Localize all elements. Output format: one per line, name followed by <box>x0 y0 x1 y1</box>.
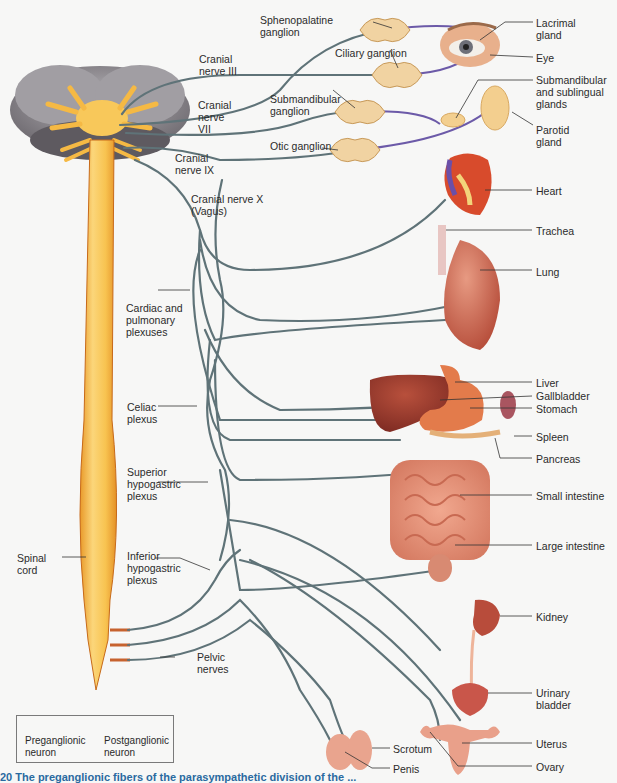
label-otic-ganglion: Otic ganglion <box>270 140 331 152</box>
label-inferior-hypogastric-plexus: Inferior hypogastric plexus <box>127 550 181 586</box>
spinal-cord-shape <box>80 140 117 690</box>
salivary-glands <box>441 86 509 130</box>
label-cranial-nerve-ix: Cranial nerve IX <box>175 152 214 176</box>
label-spinal-cord: Spinal cord <box>17 552 46 576</box>
label-cranial-nerve-x: Cranial nerve X (Vagus) <box>191 193 263 217</box>
legend-preganglionic-label: Preganglionic neuron <box>25 735 86 759</box>
label-sphenopalatine-ganglion: Sphenopalatine ganglion <box>260 14 333 38</box>
label-small-intestine: Small intestine <box>536 490 604 502</box>
label-spleen: Spleen <box>536 431 569 443</box>
label-scrotum: Scrotum <box>393 743 432 755</box>
label-cranial-nerve-vii: Cranial nerve VII <box>198 99 231 135</box>
label-cranial-nerve-iii: Cranial nerve III <box>199 53 237 77</box>
spleen-shape <box>500 391 516 419</box>
label-submandibular-ganglion: Submandibular ganglion <box>270 93 341 117</box>
label-pancreas: Pancreas <box>536 453 580 465</box>
label-stomach: Stomach <box>536 403 577 415</box>
trachea-shape <box>438 225 446 275</box>
label-cardiac-pulmonary-plexuses: Cardiac and pulmonary plexuses <box>126 302 183 338</box>
label-eye: Eye <box>536 52 554 64</box>
kidney-shape <box>473 600 500 636</box>
pancreas-shape <box>430 432 500 436</box>
label-trachea: Trachea <box>536 225 574 237</box>
label-parotid-gland: Parotid gland <box>536 124 569 148</box>
label-kidney: Kidney <box>536 611 568 623</box>
label-large-intestine: Large intestine <box>536 540 605 552</box>
label-pelvic-nerves: Pelvic nerves <box>197 651 229 675</box>
label-urinary-bladder: Urinary bladder <box>536 687 571 711</box>
ganglia <box>330 18 422 161</box>
label-liver: Liver <box>536 377 559 389</box>
label-gallbladder: Gallbladder <box>536 390 590 402</box>
bladder-shape <box>452 683 488 716</box>
label-superior-hypogastric-plexus: Superior hypogastric plexus <box>127 466 181 502</box>
label-lacrimal-gland: Lacrimal gland <box>536 17 576 41</box>
lung-shape <box>444 240 500 350</box>
label-ovary: Ovary <box>536 761 564 773</box>
legend-postganglionic-label: Postganglionic neuron <box>104 735 169 759</box>
figure-caption: 20 The preganglionic fibers of the paras… <box>0 771 356 783</box>
label-heart: Heart <box>536 185 562 197</box>
legend-box: Preganglionic neuron Postganglionic neur… <box>16 715 174 763</box>
label-uterus: Uterus <box>536 738 567 750</box>
label-penis: Penis <box>393 763 419 775</box>
heart-illustration <box>444 153 491 215</box>
label-submandibular-sublingual-glands: Submandibular and sublingual glands <box>536 74 607 110</box>
eye-illustration <box>440 23 500 67</box>
label-lung: Lung <box>536 266 559 278</box>
label-celiac-plexus: Celiac plexus <box>127 401 157 425</box>
label-ciliary-ganglion: Ciliary ganglion <box>335 47 407 59</box>
